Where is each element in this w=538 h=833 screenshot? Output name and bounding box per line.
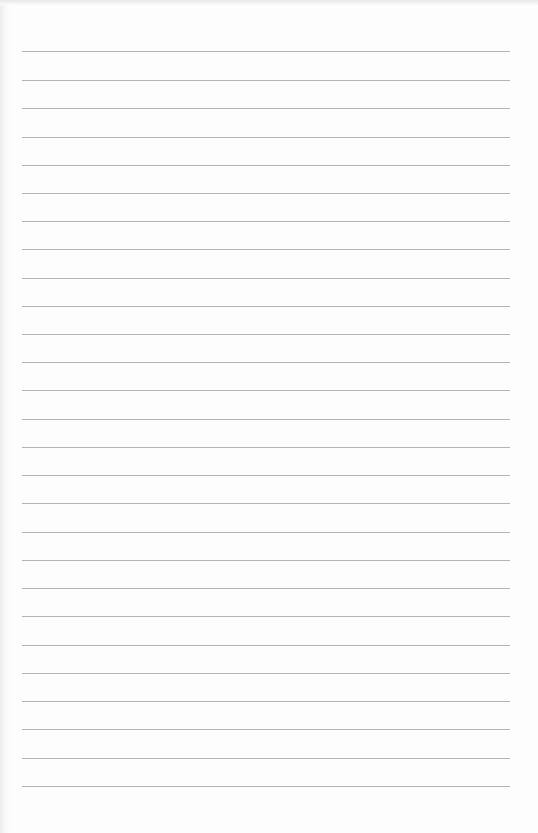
ruled-line bbox=[22, 616, 510, 617]
ruled-line bbox=[22, 729, 510, 730]
ruled-line bbox=[22, 588, 510, 589]
ruled-line bbox=[22, 532, 510, 533]
ruled-line bbox=[22, 137, 510, 138]
ruled-line bbox=[22, 390, 510, 391]
ruled-line bbox=[22, 51, 510, 52]
ruled-line bbox=[22, 645, 510, 646]
ruled-line bbox=[22, 306, 510, 307]
ruled-line bbox=[22, 419, 510, 420]
ruled-line bbox=[22, 701, 510, 702]
ruled-line bbox=[22, 249, 510, 250]
ruled-line bbox=[22, 758, 510, 759]
ruled-line bbox=[22, 447, 510, 448]
ruled-line bbox=[22, 362, 510, 363]
ruled-line bbox=[22, 673, 510, 674]
ruled-line bbox=[22, 165, 510, 166]
ruled-line bbox=[22, 80, 510, 81]
ruled-line bbox=[22, 786, 510, 787]
ruled-line bbox=[22, 334, 510, 335]
ruled-line bbox=[22, 193, 510, 194]
ruled-line bbox=[22, 278, 510, 279]
ruled-line bbox=[22, 503, 510, 504]
ruled-line bbox=[22, 475, 510, 476]
ruled-line bbox=[22, 221, 510, 222]
lined-paper-page bbox=[0, 0, 538, 833]
page-top-edge bbox=[0, 0, 538, 5]
ruled-line bbox=[22, 560, 510, 561]
ruled-line bbox=[22, 108, 510, 109]
